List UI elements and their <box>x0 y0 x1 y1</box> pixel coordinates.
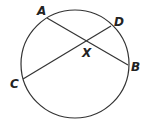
circle-diagram: A B C D X <box>0 0 144 127</box>
circle <box>21 10 129 118</box>
label-x: X <box>81 46 92 60</box>
label-a: A <box>36 4 46 18</box>
label-d: D <box>114 15 124 29</box>
label-b: B <box>131 60 140 74</box>
chord-cd <box>23 26 111 79</box>
label-c: C <box>10 77 19 91</box>
